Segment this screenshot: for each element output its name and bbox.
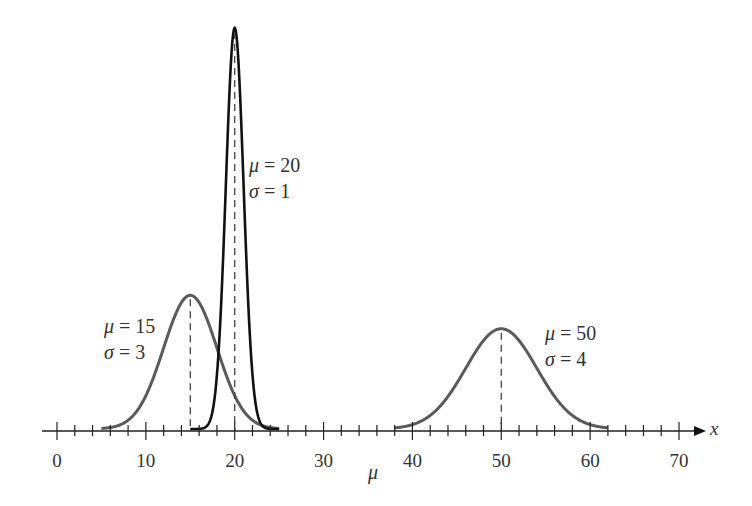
tick-label: 50 [492, 450, 511, 471]
x-axis-arrow-icon [694, 426, 706, 436]
annotations-layer: μ = 15σ = 3μ = 20σ = 1μ = 50σ = 4 [103, 154, 596, 370]
annotation-mu-50-line-1: σ = 4 [545, 348, 586, 370]
tick-label: 10 [136, 450, 155, 471]
tick-label: 0 [52, 450, 62, 471]
annotation-mu-20-line-1: σ = 1 [249, 180, 290, 202]
annotation-mu-15-line-1: σ = 3 [104, 341, 145, 363]
x-axis: 010203040506070xμ [42, 418, 719, 484]
annotation-mu-50-line-0: μ = 50 [544, 322, 596, 345]
annotation-mu-20-line-0: μ = 20 [248, 154, 300, 177]
annotation-mu-15-line-0: μ = 15 [103, 315, 155, 338]
mu-axis-label: μ [367, 461, 378, 484]
tick-label: 20 [225, 450, 244, 471]
x-axis-label: x [709, 418, 719, 439]
tick-label: 30 [314, 450, 333, 471]
tick-label: 40 [403, 450, 422, 471]
curves-layer [101, 28, 607, 431]
tick-label: 60 [581, 450, 600, 471]
normal-distributions-chart: 010203040506070xμ μ = 15σ = 3μ = 20σ = 1… [0, 0, 752, 506]
tick-label: 70 [670, 450, 689, 471]
